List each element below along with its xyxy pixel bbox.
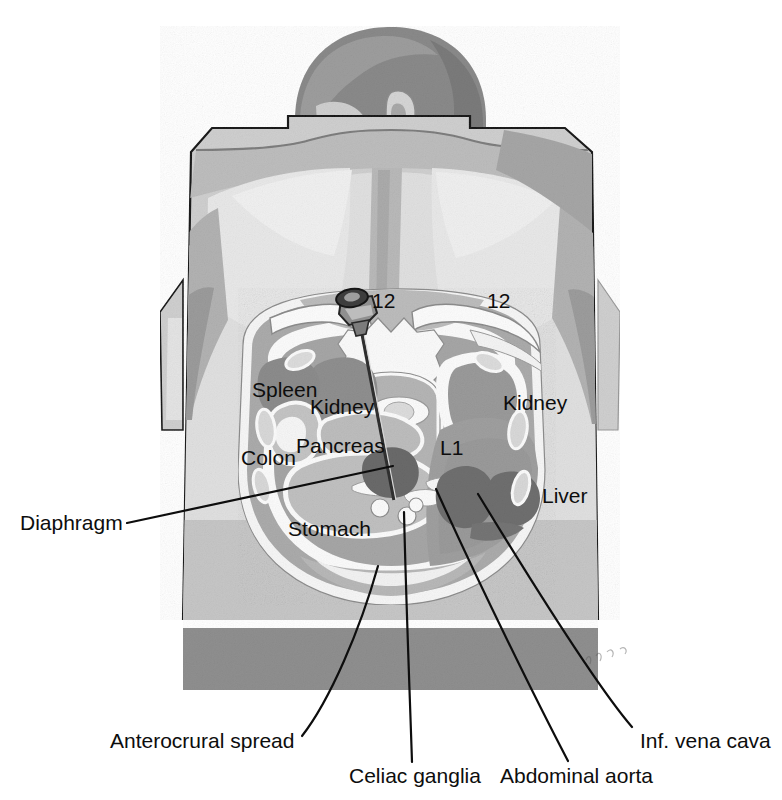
anterocrural-spread-label: Anterocrural spread [110, 730, 294, 751]
abdominal-aorta [436, 466, 494, 528]
rib-12-left-label: 12 [372, 290, 395, 311]
arm-left-highlight [166, 318, 182, 420]
stomach-label: Stomach [288, 518, 371, 539]
rib-12-right-label: 12 [487, 290, 510, 311]
celiac-plexus-block-illustration [0, 0, 782, 800]
colon-label: Colon [241, 447, 296, 468]
kidney-left-label: Kidney [310, 396, 374, 417]
table-gap-highlight [183, 620, 598, 628]
abdominal-aorta-label: Abdominal aorta [500, 765, 653, 786]
pancreas-label: Pancreas [296, 435, 385, 456]
celiac-ganglion-accessory [409, 498, 423, 512]
liver-label: Liver [542, 485, 588, 506]
kidney-right-label: Kidney [503, 392, 567, 413]
procedure-table [183, 620, 598, 690]
celiac-ganglion-left [371, 499, 389, 517]
diaphragm-label: Diaphragm [20, 512, 123, 533]
table-surface [183, 628, 598, 690]
celiac-ganglia-label: Celiac ganglia [349, 765, 481, 786]
inf-vena-cava-label: Inf. vena cava [640, 730, 771, 751]
needle-taper [352, 320, 369, 336]
spleen-label: Spleen [252, 379, 317, 400]
vertebra-l1-label: L1 [440, 437, 463, 458]
